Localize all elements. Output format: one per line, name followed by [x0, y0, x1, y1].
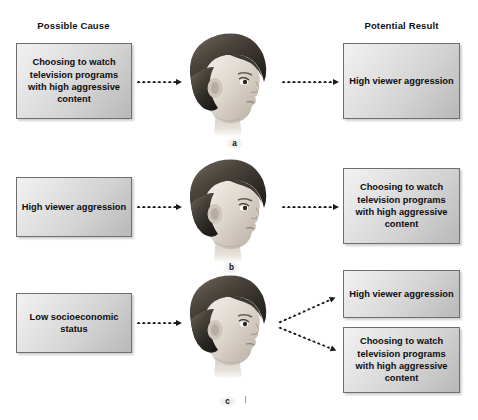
row-label-c-text: c — [225, 397, 230, 406]
child-head-profile-illustration-row-b — [168, 148, 284, 266]
arrow-head-to-result-row-c-lower — [277, 324, 340, 354]
cause-box-row-a-label: Choosing to watch television programs wi… — [21, 56, 127, 106]
result-box-row-a: High viewer aggression — [343, 43, 460, 119]
result-box-row-a-label: High viewer aggression — [349, 75, 453, 87]
arrow-head-to-result-row-c-upper — [277, 293, 340, 325]
result-box-row-c-tv-choice: Choosing to watch television programs wi… — [343, 327, 460, 393]
cause-box-row-c: Low socioeconomic status — [16, 293, 132, 353]
result-box-row-b: Choosing to watch television programs wi… — [343, 168, 460, 244]
result-box-row-c-tv-choice-label: Choosing to watch television programs wi… — [348, 335, 455, 385]
column-header-possible-cause: Possible Cause — [16, 20, 131, 31]
cause-box-row-b-label: High viewer aggression — [22, 201, 126, 213]
arrow-dots — [278, 326, 332, 349]
arrow-dots — [281, 81, 333, 83]
column-header-potential-result: Potential Result — [343, 20, 460, 31]
tick-mark-row-c — [245, 396, 246, 403]
arrow-head-to-result-row-a — [281, 79, 341, 85]
arrow-head-icon — [330, 346, 338, 354]
causation-diagram: Possible Cause Potential Result Choosing… — [0, 0, 478, 420]
arrow-dots — [278, 299, 331, 324]
cause-box-row-a: Choosing to watch television programs wi… — [16, 43, 132, 119]
arrow-head-icon — [333, 204, 339, 210]
cause-box-row-b: High viewer aggression — [16, 177, 132, 237]
arrow-head-icon — [333, 79, 339, 85]
arrow-head-icon — [329, 295, 337, 303]
result-box-row-b-label: Choosing to watch television programs wi… — [348, 181, 455, 231]
row-label-c: c — [219, 396, 236, 407]
row-label-a-text: a — [232, 139, 237, 148]
arrow-dots — [281, 206, 333, 208]
result-box-row-c-aggression: High viewer aggression — [343, 270, 460, 318]
child-head-profile-illustration-row-c — [168, 264, 284, 382]
result-box-row-c-aggression-label: High viewer aggression — [349, 288, 453, 300]
arrow-head-to-result-row-b — [281, 204, 341, 210]
child-head-profile-illustration-row-a — [168, 22, 284, 140]
cause-box-row-c-label: Low socioeconomic status — [21, 311, 127, 336]
